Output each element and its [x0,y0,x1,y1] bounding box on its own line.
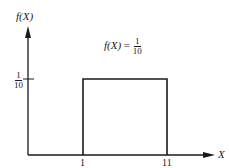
x-tick-label-1: 1 [80,157,85,168]
density-plot [0,0,229,168]
y-tick-label: 110 [14,70,23,90]
y-axis-arrow-icon [25,26,31,38]
x-axis-arrow-icon [203,152,215,158]
x-tick-label-11: 11 [162,157,172,168]
uniform-density-rectangle [83,79,167,155]
y-axis-label: f(X) [16,10,33,22]
density-equation: f(X) = 110 [104,37,142,56]
x-axis-label: X [218,148,225,160]
